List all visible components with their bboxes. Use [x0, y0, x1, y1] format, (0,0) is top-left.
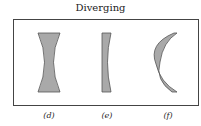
lens-e-plano-concave [102, 33, 111, 92]
label-f: (f) [158, 111, 178, 120]
lens-f-meniscus [154, 33, 177, 92]
lens-d-biconcave [38, 33, 60, 92]
lens-diagram [0, 0, 201, 126]
label-d: (d) [39, 111, 59, 120]
label-e: (e) [97, 111, 117, 120]
